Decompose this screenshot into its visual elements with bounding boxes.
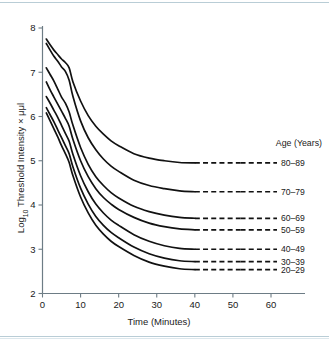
y-tick-label: 5 bbox=[30, 155, 35, 166]
y-axis-title: Log10 Threshold Intensity × μμl bbox=[15, 103, 29, 233]
x-tick-label: 20 bbox=[113, 299, 124, 310]
y-title-log: Log bbox=[15, 217, 26, 233]
chart-canvas: 2345678 0102030405060 Age (Years)80–8970… bbox=[0, 0, 329, 341]
y-tick-label: 6 bbox=[30, 111, 35, 122]
y-tick-label: 3 bbox=[30, 244, 35, 255]
y-axis: 2345678 bbox=[30, 22, 42, 299]
curve-50-59 bbox=[46, 82, 195, 230]
legend-label-40-49: 40–49 bbox=[281, 244, 305, 254]
legend-label-20-29: 20–29 bbox=[281, 265, 305, 275]
x-tick-label: 50 bbox=[228, 299, 239, 310]
curve-20-29 bbox=[46, 113, 195, 270]
x-tick-label: 40 bbox=[190, 299, 201, 310]
x-axis-title: Time (Minutes) bbox=[128, 316, 191, 327]
legend-label-70-79: 70–79 bbox=[281, 187, 305, 197]
curve-60-69 bbox=[46, 68, 195, 218]
legend-label-80-89: 80–89 bbox=[281, 158, 305, 168]
x-axis: 0102030405060 bbox=[40, 294, 305, 311]
curve-80-89 bbox=[46, 39, 195, 163]
y-title-rest: Threshold Intensity × μμl bbox=[15, 103, 26, 210]
y-tick-label: 2 bbox=[30, 288, 35, 299]
y-tick-label: 7 bbox=[30, 67, 35, 78]
curve-series-group bbox=[46, 39, 240, 270]
legend-label-60-69: 60–69 bbox=[281, 213, 305, 223]
legend-title: Age (Years) bbox=[276, 138, 322, 148]
x-tick-label: 0 bbox=[40, 299, 45, 310]
legend: Age (Years)80–8970–7960–6950–5940–4930–3… bbox=[241, 138, 323, 275]
y-tick-label: 8 bbox=[30, 22, 35, 33]
y-title-subscript: 10 bbox=[21, 209, 28, 217]
x-tick-label: 60 bbox=[266, 299, 277, 310]
legend-label-50-59: 50–59 bbox=[281, 225, 305, 235]
x-tick-label: 30 bbox=[151, 299, 162, 310]
y-tick-label: 4 bbox=[30, 199, 35, 210]
x-tick-label: 10 bbox=[75, 299, 86, 310]
curve-30-39 bbox=[46, 108, 195, 262]
figure-container: 2345678 0102030405060 Age (Years)80–8970… bbox=[0, 0, 329, 341]
